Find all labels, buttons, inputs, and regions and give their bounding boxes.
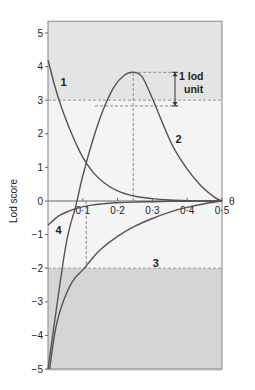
y-tick-label: 4 [37,61,43,72]
x-tick-label: 0·5 [215,205,230,216]
curve-label-4: 4 [55,224,62,236]
curve-label-1: 1 [61,76,67,88]
region-inconclusive [48,100,222,268]
curve-label-2: 2 [175,133,181,145]
region-linkage-excluded [48,268,222,370]
curve-label-3: 3 [153,257,159,269]
y-axis: 543210−1−2−3−4−5 [32,28,48,375]
y-tick-label: 3 [37,95,43,106]
y-tick-label: −1 [32,229,44,240]
y-tick-label: 0 [37,196,43,207]
y-tick-label: 5 [37,28,43,39]
x-axis-title: θ [229,196,235,207]
y-tick-label: −2 [32,263,44,274]
y-tick-label: 2 [37,128,43,139]
annotation-unit: unit [184,83,204,95]
y-tick-label: −4 [32,330,44,341]
y-axis-title: Lod score [8,179,19,223]
annotation-1-lod: 1 lod [179,70,204,82]
y-tick-label: 1 [37,162,43,173]
y-tick-label: −3 [32,296,44,307]
x-tick-label: 0·3 [145,205,160,216]
lod-score-chart: 0·10·20·30·40·5 543210−1−2−3−4−5 1234 Lo… [0,0,255,390]
y-tick-label: −5 [32,364,44,375]
x-tick-label: 0·2 [110,205,125,216]
